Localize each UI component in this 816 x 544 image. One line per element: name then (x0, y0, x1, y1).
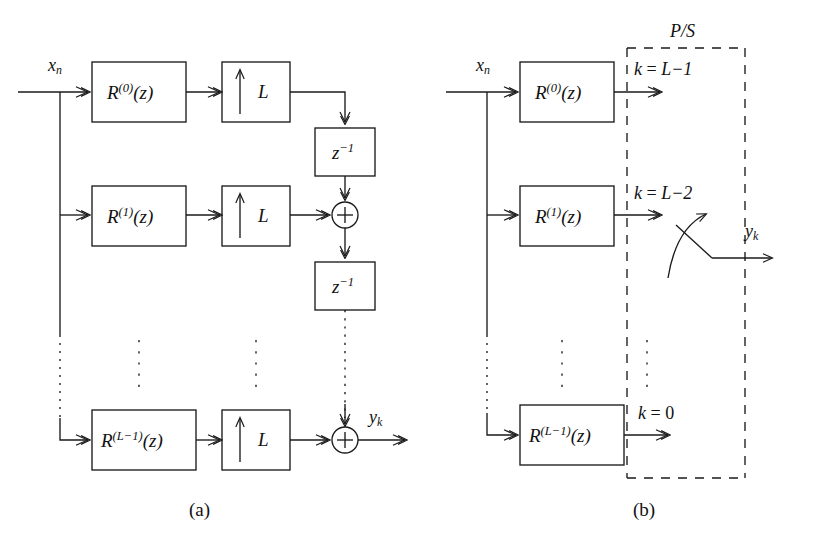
panel-a-upsampler-label-2: L (258, 430, 269, 449)
panel-a-output-label: yk (369, 408, 382, 428)
plus-circle-icon-1 (332, 427, 358, 453)
panel-b-filter-label-0: R(0)(z) (535, 82, 581, 102)
input-symbol: x (48, 55, 56, 75)
figure-container: xn R(0)(z) R(1)(z) R(L−1)(z) L L L z−1 z… (0, 0, 816, 544)
panel-b-tap-label-1: k = L−2 (634, 184, 692, 202)
caption-b: (b) (633, 500, 655, 519)
panel-b-filter-label-2: R(L−1)(z) (529, 425, 591, 445)
panel-a-input-line (18, 92, 88, 440)
panel-b-tap-label-0: k = L−1 (634, 60, 692, 78)
panel-a-delay-label-1: z−1 (332, 276, 354, 296)
input-subscript: n (56, 63, 62, 77)
panel-a-path-up0-delay0 (290, 92, 345, 122)
plus-circle-icon-0 (332, 202, 358, 228)
panel-a-upsampler-box-2 (222, 410, 290, 470)
panel-a-upsampler-box-1 (222, 186, 290, 246)
ps-label: P/S (670, 22, 695, 40)
panel-b-filter-label-1: R(1)(z) (535, 206, 581, 226)
panel-b-input-line (446, 92, 516, 435)
panel-a-delay-label-0: z−1 (332, 142, 354, 162)
panel-a-input-label: xn (48, 56, 62, 76)
panel-b-input-label: xn (476, 56, 490, 76)
panel-a-filter-label-2: R(L−1)(z) (101, 430, 163, 450)
panel-a-filter-label-1: R(1)(z) (107, 206, 153, 226)
panel-a-filter-label-0: R(0)(z) (107, 82, 153, 102)
panel-a-upsampler-label-0: L (258, 82, 269, 101)
panel-b-tap-label-2: k = 0 (638, 404, 674, 422)
panel-a-upsampler-label-1: L (258, 206, 269, 225)
panel-b-output-label: yk (745, 222, 758, 242)
caption-a: (a) (189, 500, 210, 519)
panel-a-upsampler-box-0 (222, 62, 290, 122)
